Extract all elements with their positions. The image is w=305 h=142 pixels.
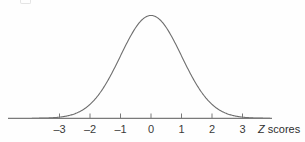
x-tick-label-0: 0 — [139, 123, 163, 135]
plot-area — [0, 0, 305, 142]
x-tick-label-1: 1 — [170, 123, 194, 135]
x-axis-ticks — [60, 114, 243, 119]
normal-distribution-figure: –3 –2 –1 0 1 2 3 Z scores — [0, 0, 305, 142]
x-tick-label-2: 2 — [200, 123, 224, 135]
x-axis-title: Z scores — [258, 123, 300, 135]
x-axis-title-rest: scores — [265, 123, 300, 135]
scan-artifact — [20, 0, 31, 4]
x-tick-label--2: –2 — [78, 123, 102, 135]
x-tick-label--1: –1 — [109, 123, 133, 135]
x-tick-label-3: 3 — [231, 123, 255, 135]
x-tick-label--3: –3 — [48, 123, 72, 135]
x-axis-title-variable: Z — [258, 123, 265, 135]
normal-curve — [32, 15, 270, 118]
